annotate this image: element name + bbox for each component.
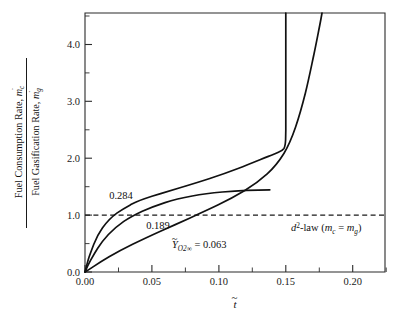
annotation-label-d2law: d2-law (mc = mg) — [291, 221, 362, 237]
curve-0284 — [85, 13, 286, 272]
x-tick-label: 0.05 — [143, 276, 161, 287]
chart-figure: Fuel Consumption Rate, ṁc Fuel Gasifica… — [0, 0, 401, 321]
svg-text:0.284: 0.284 — [109, 190, 133, 201]
x-axis-title-tilde: ~ — [232, 291, 238, 303]
y-axis-tick-labels: 0.0 1.0 2.0 3.0 4.0 — [67, 39, 80, 277]
svg-text:0.189: 0.189 — [146, 220, 170, 231]
y-axis-title: Fuel Consumption Rate, ṁc Fuel Gasifica… — [12, 58, 43, 228]
curve-0189 — [85, 190, 270, 272]
x-tick-label: 0.10 — [210, 276, 228, 287]
annotation-label-0189: 0.189 — [146, 220, 170, 231]
x-tick-label: 0.20 — [344, 276, 362, 287]
y-tick-label: 4.0 — [67, 39, 80, 50]
annotation-y-o2-inf: YO2∞ = 0.063 — [172, 239, 227, 253]
x-tick-label: 0.15 — [277, 276, 295, 287]
annotation-label-0284: 0.284 — [109, 190, 133, 201]
d2-law-annotation-text: d2-law (mc = mg) — [291, 221, 362, 237]
y-axis-title-numerator: Fuel Consumption Rate, ṁc — [12, 85, 26, 198]
y-axis-ticks — [85, 16, 92, 272]
chart-svg: Fuel Consumption Rate, ṁc Fuel Gasifica… — [0, 0, 401, 321]
x-axis-tick-labels: 0.00 0.05 0.10 0.15 0.20 — [76, 276, 362, 287]
plot-frame — [85, 13, 385, 272]
x-axis-ticks — [85, 265, 386, 272]
x-tick-label: 0.00 — [76, 276, 94, 287]
y-tick-label: 2.0 — [67, 153, 80, 164]
annotation-y-tilde: ~ — [172, 233, 178, 244]
y-axis-title-denominator: Fuel Gasification Rate, ṁg — [29, 88, 43, 196]
x-axis-title: t ~ — [232, 291, 238, 311]
annotation-label-0063: YO2∞ = 0.063 ~ — [172, 233, 227, 254]
y-tick-label: 1.0 — [67, 210, 80, 221]
y-tick-label: 3.0 — [67, 96, 80, 107]
